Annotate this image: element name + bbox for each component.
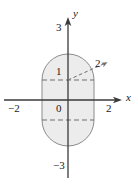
x-tick-label-2: 2 bbox=[106, 103, 112, 114]
origin-label: 0 bbox=[56, 103, 62, 114]
y-tick-label-1: 1 bbox=[56, 66, 62, 77]
math-figure: y x 3 1 −3 0 −2 2 2 bbox=[0, 0, 138, 188]
y-tick-label-3: 3 bbox=[56, 22, 62, 33]
x-tick-label-negative-2: −2 bbox=[8, 103, 20, 114]
y-tick-label-negative-3: −3 bbox=[53, 160, 65, 171]
radius-label: 2 bbox=[95, 58, 101, 69]
figure-canvas bbox=[0, 0, 138, 188]
x-axis-label: x bbox=[126, 92, 131, 103]
y-axis-label: y bbox=[73, 8, 78, 19]
